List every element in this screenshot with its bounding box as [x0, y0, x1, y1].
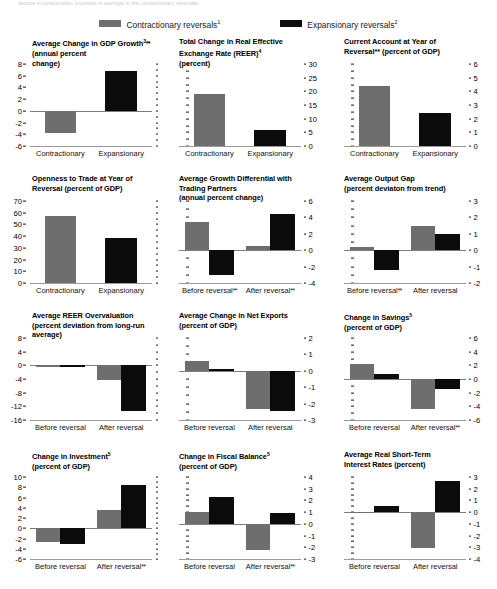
bar-expansionary	[121, 365, 145, 410]
bar-contractionary	[350, 512, 374, 513]
y-tick-mark	[304, 77, 307, 78]
bar-expansionary	[105, 71, 137, 111]
y-minor-tick-mark	[156, 64, 159, 65]
y-minor-tick-mark	[156, 358, 159, 359]
x-tick-label: After reversal	[405, 286, 466, 295]
y-minor-tick-mark	[156, 507, 159, 508]
y-tick-label: 0	[474, 509, 478, 516]
y-axis-ticks-change-in-investment: 1086420-2-4-6	[0, 447, 26, 585]
y-tick-label: 2	[474, 485, 478, 492]
y-tick-mark	[304, 118, 307, 119]
y-tick-label: 2	[309, 497, 313, 504]
y-tick-label: 1	[309, 351, 313, 358]
y-minor-tick-mark	[156, 523, 159, 524]
y-minor-tick-mark	[156, 553, 159, 554]
bar-contractionary	[45, 216, 77, 283]
y-axis-ticks-growth-differential: 6420-2-4	[303, 171, 329, 309]
y-tick-mark	[23, 518, 26, 519]
y-tick-mark	[469, 406, 472, 407]
panel-title-fiscal-balance: Change in Fiscal Balance5(percent of GDP…	[179, 450, 315, 472]
y-tick-mark	[23, 110, 26, 111]
y-tick-label: -8	[15, 389, 22, 396]
y-tick-label: 3	[474, 102, 478, 109]
bar-expansionary	[270, 371, 294, 411]
y-tick-mark	[304, 547, 307, 548]
panel-title-line: Change in Fiscal Balance5	[179, 450, 315, 462]
y-tick-mark	[469, 477, 472, 478]
x-tick-label: Expansionary	[91, 286, 152, 295]
y-minor-tick-mark	[156, 559, 159, 560]
y-tick-label: 2	[18, 96, 22, 103]
y-minor-tick-mark	[156, 385, 159, 386]
x-axis-line	[179, 146, 301, 147]
x-axis-labels-change-in-savings: Before reversalAfter reversal**	[344, 423, 466, 432]
legend-label-contractionary: Contractionary reversals1	[126, 19, 220, 30]
y-minor-tick-mark	[156, 420, 159, 421]
bar-contractionary	[97, 365, 121, 380]
y-tick-mark	[469, 351, 472, 352]
y-minor-tick-mark	[156, 236, 159, 237]
y-tick-mark	[469, 146, 472, 147]
y-minor-tick-mark	[156, 201, 159, 202]
y-tick-label: 0	[18, 525, 22, 532]
legend-item-contractionary: Contractionary reversals1	[99, 19, 220, 30]
y-tick-label: -3	[474, 544, 481, 551]
y-tick-mark	[304, 105, 307, 106]
y-tick-mark	[23, 406, 26, 407]
y-tick-label: 20	[14, 256, 22, 263]
x-tick-label: Before reversal**	[344, 286, 405, 295]
y-tick-label: 15	[309, 102, 317, 109]
x-axis-labels-change-in-investment: Before reversalAfter reversal**	[30, 562, 152, 571]
y-tick-mark	[469, 420, 472, 421]
panel-title-line: (percent of GDP)	[32, 462, 168, 472]
y-minor-tick-mark	[156, 512, 159, 513]
y-tick-label: 0	[18, 362, 22, 369]
y-tick-label: -4	[474, 556, 481, 563]
y-minor-tick-mark	[156, 548, 159, 549]
bar-expansionary	[270, 513, 294, 524]
x-tick-label: Before reversal	[179, 562, 240, 571]
panel-title-line: (percent of GDP)	[179, 462, 315, 472]
y-minor-tick-mark	[156, 406, 159, 407]
bar-contractionary	[350, 247, 374, 250]
y-tick-label: 10	[14, 474, 22, 481]
y-minor-tick-mark	[156, 230, 159, 231]
y-tick-label: -4	[474, 403, 481, 410]
y-tick-mark	[23, 247, 26, 248]
y-tick-mark	[23, 283, 26, 284]
bar-expansionary	[419, 113, 451, 146]
y-tick-mark	[23, 351, 26, 352]
y-tick-label: -2	[309, 263, 316, 270]
x-axis-labels-current-account: ContractionaryExpansionary	[344, 149, 466, 158]
y-minor-tick-mark	[156, 140, 159, 141]
y-tick-mark	[469, 512, 472, 513]
panel-title-line: Exchange Rate (REER)4	[179, 47, 315, 59]
bar-expansionary	[254, 130, 286, 146]
y-tick-label: 4	[18, 348, 22, 355]
y-minor-tick-mark	[156, 413, 159, 414]
y-tick-mark	[304, 201, 307, 202]
chart-panel-real-short-term-rates: Average Real Short-TermInterest Rates (p…	[330, 447, 496, 585]
x-tick-label: After reversal**	[405, 423, 466, 432]
plot-area-current-account	[344, 64, 466, 146]
y-tick-label: -1	[309, 532, 316, 539]
y-tick-mark	[304, 420, 307, 421]
panel-title-line: Openness to Trade at Year of	[32, 174, 168, 184]
y-tick-mark	[469, 488, 472, 489]
y-tick-mark	[469, 338, 472, 339]
top-note-fragment: decline in consumption (increase in savi…	[18, 0, 478, 7]
bar-contractionary	[246, 246, 270, 250]
x-tick-label: After reversal**	[91, 562, 152, 571]
y-minor-tick-mark	[156, 487, 159, 488]
y-tick-mark	[469, 523, 472, 524]
y-tick-label: -4	[15, 545, 22, 552]
y-tick-mark	[23, 507, 26, 508]
plot-area-growth-differential	[179, 201, 301, 283]
bar-expansionary	[105, 238, 137, 283]
y-minor-tick-mark	[156, 146, 159, 147]
x-axis-line	[344, 283, 466, 284]
y-minor-tick-mark	[156, 87, 159, 88]
chart-panel-gdp-growth: Average Change in GDP Growth3**(annual p…	[0, 34, 166, 172]
bar-expansionary	[270, 214, 294, 250]
y-tick-label: 0	[474, 376, 478, 383]
